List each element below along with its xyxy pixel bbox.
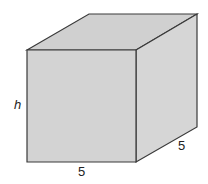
cube-diagram: h 5 5 [0,0,208,184]
height-label: h [14,97,21,112]
width-label: 5 [78,164,85,179]
cube-front-face [27,50,136,162]
depth-label: 5 [178,138,185,153]
